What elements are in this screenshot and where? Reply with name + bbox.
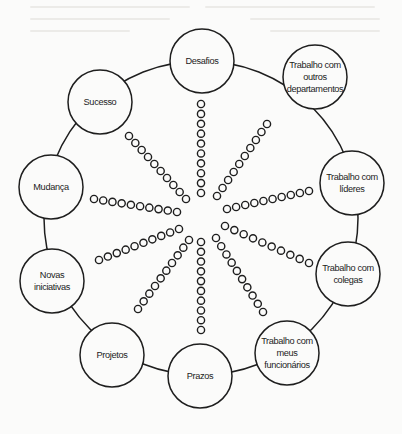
bead-icon [197,238,204,245]
bead-icon [197,297,204,304]
bead-icon [218,243,225,250]
bead-icon [157,275,164,282]
spoke-lower-left [134,236,192,312]
node-lideres [320,151,384,215]
spoke-upper-right [213,120,270,199]
bead-icon [239,276,246,283]
bead-icon [223,251,230,258]
bead-icon [158,232,165,239]
bead-icon [247,144,254,151]
bead-icon [118,200,125,207]
bead-icon [249,235,256,242]
bead-icon [219,184,226,191]
spoke-right-upper [223,187,312,212]
bead-icon [100,197,107,204]
bead-icon [137,203,144,210]
bead-icon [197,170,204,177]
bead-icon [212,234,219,241]
bead-icon [95,256,102,263]
bead-icon [90,195,97,202]
bead-icon [233,203,240,210]
bead-icon [144,153,151,160]
topic-nodes [19,29,384,408]
bead-icon [127,201,134,208]
bead-icon [182,195,189,202]
node-mudanca [19,155,83,219]
bead-icon [236,160,243,167]
bead-icon [174,252,181,259]
node-novas-iniciativas [20,249,84,313]
bead-icon [140,239,147,246]
bead-icon [176,188,183,195]
bead-icon [259,239,266,246]
bead-icon [151,160,158,167]
radial-diagram: DesafiosTrabalho com outros departamento… [0,0,402,434]
diagram-canvas [0,0,402,434]
spoke-left-upper [90,195,180,215]
bead-icon [155,206,162,213]
bead-icon [287,191,294,198]
bead-icon [263,120,270,127]
bead-icon [164,207,171,214]
bead-icon [175,225,182,232]
node-prazos [168,344,232,408]
bead-icon [223,205,230,212]
bead-icon [109,198,116,205]
bead-icon [125,132,132,139]
bead-icon [305,259,312,266]
bead-icon [197,287,204,294]
bead-icon [197,180,204,187]
bead-icon [258,128,265,135]
bead-icon [151,282,158,289]
node-projetos [80,323,144,387]
bead-icon [242,201,249,208]
bead-icon [131,243,138,250]
bead-icon [122,246,129,253]
spoke-lower-right [212,234,266,315]
bead-icon [233,267,240,274]
bead-icon [197,100,204,107]
spoke-upper-left [125,132,189,202]
bead-icon [305,187,312,194]
spoke-top [197,100,204,196]
bead-icon [251,199,258,206]
node-desafios [170,29,234,93]
bead-icon [197,317,204,324]
bead-icon [213,192,220,199]
bead-icon [268,243,275,250]
bead-icon [296,189,303,196]
bead-icon [260,197,267,204]
spoke-bottom [197,238,204,333]
bead-icon [163,174,170,181]
bead-icon [225,176,232,183]
node-outros-departamentos [283,45,347,109]
bead-icon [197,268,204,275]
bead-icon [197,189,204,196]
bead-icon [173,208,180,215]
node-sucesso [68,70,132,134]
bead-icon [197,326,204,333]
bead-icon [104,253,111,260]
bead-icon [197,130,204,137]
bead-icon [134,305,141,312]
bead-icon [197,160,204,167]
bead-icon [146,204,153,211]
node-colegas [316,242,380,306]
bead-icon [230,168,237,175]
bead-icon [249,292,256,299]
bead-icon [113,250,120,257]
node-meus-funcionarios [255,321,319,385]
bead-icon [149,236,156,243]
spoke-left-lower [95,225,182,263]
bead-icon [138,146,145,153]
bead-icon [296,255,303,262]
bead-icon [197,140,204,147]
bead-icon [228,259,235,266]
bead-icon [197,278,204,285]
bead-icon [146,290,153,297]
bead-icon [157,167,164,174]
bead-icon [231,227,238,234]
bead-icon [197,120,204,127]
bead-icon [197,150,204,157]
bead-icon [221,222,228,229]
